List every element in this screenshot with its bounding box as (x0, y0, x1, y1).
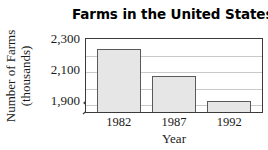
bar-slot-1987 (151, 39, 197, 112)
bar-series (86, 39, 262, 112)
x-tick-label-1987: 1987 (151, 115, 197, 130)
x-tick-label-1982: 1982 (96, 115, 142, 130)
y-tick-label-2300: 2,300 (36, 32, 80, 45)
y-tick-label-1900: 1,900 (36, 94, 80, 107)
chart-title: Farms in the United States (72, 6, 266, 22)
bar-1992 (207, 101, 251, 112)
x-axis-title: Year (85, 131, 263, 147)
bar-1982 (97, 49, 141, 112)
plot-area (85, 38, 263, 113)
y-axis-title-line2: (thousands) (18, 46, 33, 107)
y-axis-title-line1: Number of Farms (3, 30, 18, 122)
y-axis-tick-labels: 2,300 2,100 1,900 (34, 0, 80, 150)
x-axis-tick-labels: 1982 1987 1992 (85, 115, 263, 130)
y-tick-label-2100: 2,100 (36, 63, 80, 76)
chart-figure: Farms in the United States Number of Far… (0, 0, 268, 150)
bar-slot-1992 (206, 39, 252, 112)
x-tick-label-1992: 1992 (206, 115, 252, 130)
bar-slot-1982 (96, 39, 142, 112)
bar-1987 (152, 76, 196, 113)
